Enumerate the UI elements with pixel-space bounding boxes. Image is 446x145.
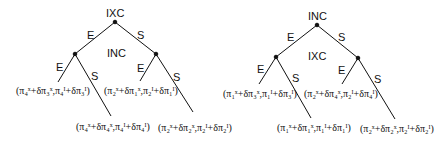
inner-label-left: INC: [107, 48, 126, 59]
payoff-ES-right: (π₁ˣ+δπ₁ˣ,π₁ᴵ+δπ₁ᴵ): [277, 123, 351, 133]
edge-label: S: [374, 74, 381, 85]
edge-label: S: [137, 30, 144, 41]
payoff-SS-left: (π₂ˣ+δπ₂ˣ,π₂ᴵ+δπ₂ᴵ): [158, 123, 232, 133]
edge-label: E: [137, 63, 144, 74]
payoff-EE-left: (π₄ˣ+δπ₃ˣ,π₄ᴵ+δπ₃ᴵ): [16, 86, 90, 96]
edge-label: E: [56, 62, 63, 73]
root-label-left: IXC: [106, 8, 124, 19]
payoff-SE-right: (π₂ˣ+δπ₄ˣ,π₂ᴵ+δπ₄ᴵ): [304, 89, 378, 99]
edge-label: S: [292, 73, 299, 84]
edge-label: S: [173, 72, 180, 83]
payoff-SS-right: (π₂ˣ+δπ₂ˣ,π₂ᴵ+δπ₂ᴵ): [360, 124, 434, 134]
payoff-ES-left: (π₄ˣ+δπ₄ˣ,π₄ᴵ+δπ₄ᴵ): [76, 122, 150, 132]
payoff-EE-right: (π₁ˣ+δπ₃ˣ,π₁ᴵ+δπ₃ᴵ): [223, 89, 297, 99]
edge-label: S: [91, 71, 98, 82]
payoff-SE-left: (π₂ˣ+δπ₁ˣ,π₂ᴵ+δπ₁ᴵ): [104, 86, 178, 96]
edge-label: E: [287, 32, 294, 43]
edge-label: S: [338, 32, 345, 43]
edge-label: E: [87, 30, 94, 41]
edge-label: E: [338, 65, 345, 76]
inner-label-right: IXC: [308, 51, 326, 62]
edge-label: E: [257, 64, 264, 75]
root-label-right: INC: [308, 11, 327, 22]
